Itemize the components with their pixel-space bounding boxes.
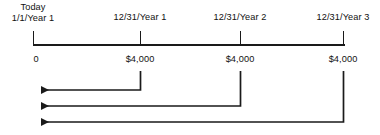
date-label-year-2: 12/31/Year 2 <box>214 12 267 23</box>
amount-label-year-2: $4,000 <box>226 54 255 65</box>
discount-arrow-year-3 <box>41 71 344 122</box>
today-word: Today <box>12 2 55 13</box>
amount-label-year-1: $4,000 <box>126 54 155 65</box>
date-label-today: Today 1/1/Year 1 <box>12 2 55 23</box>
amount-label-year-3: $4,000 <box>329 54 358 65</box>
amount-label-today: 0 <box>33 54 38 65</box>
date-label-year-1: 12/31/Year 1 <box>114 12 167 23</box>
discount-arrow-year-1 <box>41 71 141 90</box>
today-date: 1/1/Year 1 <box>12 13 55 24</box>
timeline-figure: Today 1/1/Year 1 12/31/Year 1 12/31/Year… <box>0 0 380 135</box>
date-label-year-3: 12/31/Year 3 <box>317 12 370 23</box>
